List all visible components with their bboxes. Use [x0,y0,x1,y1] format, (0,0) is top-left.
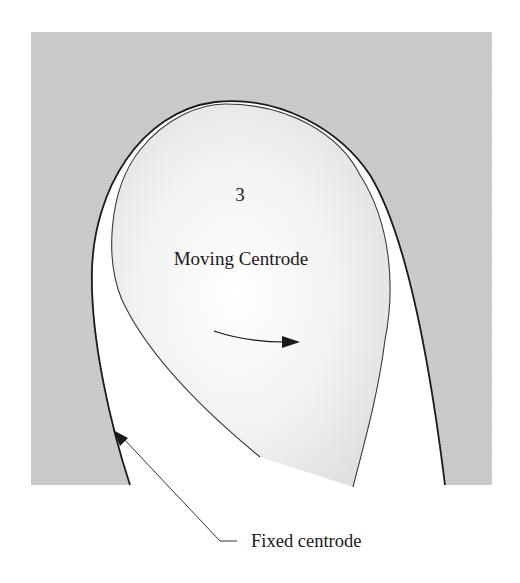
centrode-diagram: 3 Moving Centrode Fixed centrode [0,0,520,583]
fixed-centrode-label: Fixed centrode [251,531,361,551]
diagram-canvas: 3 Moving Centrode Fixed centrode [0,0,520,583]
moving-centrode-label: Moving Centrode [174,248,309,269]
link-number-label: 3 [235,184,245,205]
